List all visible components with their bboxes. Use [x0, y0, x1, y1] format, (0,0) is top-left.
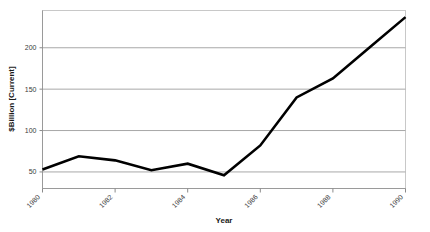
x-axis-title: Year [216, 216, 233, 225]
y-axis-title: $Billion [Current] [7, 66, 16, 132]
y-axis-tick-label: 50 [29, 168, 37, 175]
y-axis-tick-label: 200 [25, 44, 37, 51]
chart-background [0, 0, 430, 232]
line-chart: 50100150200 198019821984198619881990 Yea… [0, 0, 430, 232]
chart-canvas: 50100150200 198019821984198619881990 Yea… [0, 0, 430, 232]
y-axis-tick-label: 150 [25, 86, 37, 93]
y-axis-tick-label: 100 [25, 127, 37, 134]
